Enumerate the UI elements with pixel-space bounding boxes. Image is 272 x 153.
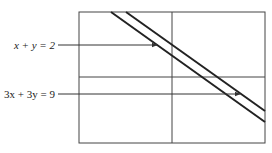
label-x-plus-y-eq-2: x + y = 2 bbox=[13, 39, 56, 51]
line-x-plus-y-eq-2 bbox=[111, 12, 265, 122]
line-3x-plus-3y-eq-9 bbox=[126, 12, 265, 111]
label-3x-plus-3y-eq-9: 3x + 3y = 9 bbox=[4, 88, 55, 100]
diagram: x + y = 2 3x + 3y = 9 bbox=[0, 0, 272, 153]
